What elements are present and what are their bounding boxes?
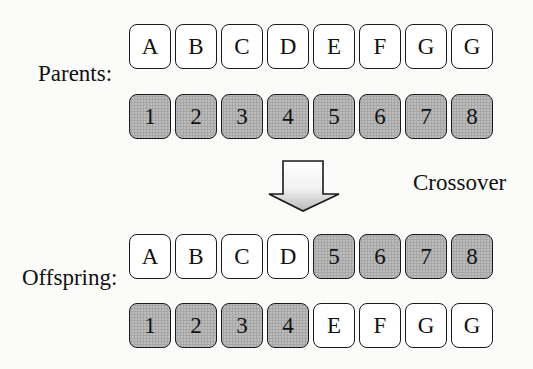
gene-cell: 3 [221,303,263,348]
crossover-label: Crossover [413,171,506,194]
gene-cell: 6 [359,234,401,279]
parent-chromosome-2: 12345678 [129,94,497,139]
gene-cell: 5 [313,94,355,139]
gene-cell: G [405,24,447,69]
offspring-label: Offspring: [22,266,117,289]
gene-cell: 4 [267,94,309,139]
gene-cell: 8 [451,94,493,139]
gene-cell: 7 [405,234,447,279]
gene-cell: E [313,303,355,348]
gene-cell: B [175,234,217,279]
gene-cell: D [267,24,309,69]
gene-cell: E [313,24,355,69]
gene-cell: 8 [451,234,493,279]
gene-cell: 5 [313,234,355,279]
offspring-chromosome-2: 1234EFGG [129,303,497,348]
gene-cell: A [129,234,171,279]
gene-cell: G [405,303,447,348]
parent-chromosome-1: ABCDEFGG [129,24,497,69]
gene-cell: 3 [221,94,263,139]
gene-cell: F [359,24,401,69]
offspring-chromosome-1: ABCD5678 [129,234,497,279]
gene-cell: 7 [405,94,447,139]
gene-cell: B [175,24,217,69]
gene-cell: A [129,24,171,69]
gene-cell: 2 [175,94,217,139]
gene-cell: 1 [129,303,171,348]
gene-cell: G [451,303,493,348]
gene-cell: C [221,234,263,279]
parents-label: Parents: [38,62,112,85]
gene-cell: G [451,24,493,69]
gene-cell: 1 [129,94,171,139]
gene-cell: 4 [267,303,309,348]
gene-cell: F [359,303,401,348]
gene-cell: 6 [359,94,401,139]
gene-cell: C [221,24,263,69]
gene-cell: 2 [175,303,217,348]
down-arrow-icon [265,157,345,217]
gene-cell: D [267,234,309,279]
